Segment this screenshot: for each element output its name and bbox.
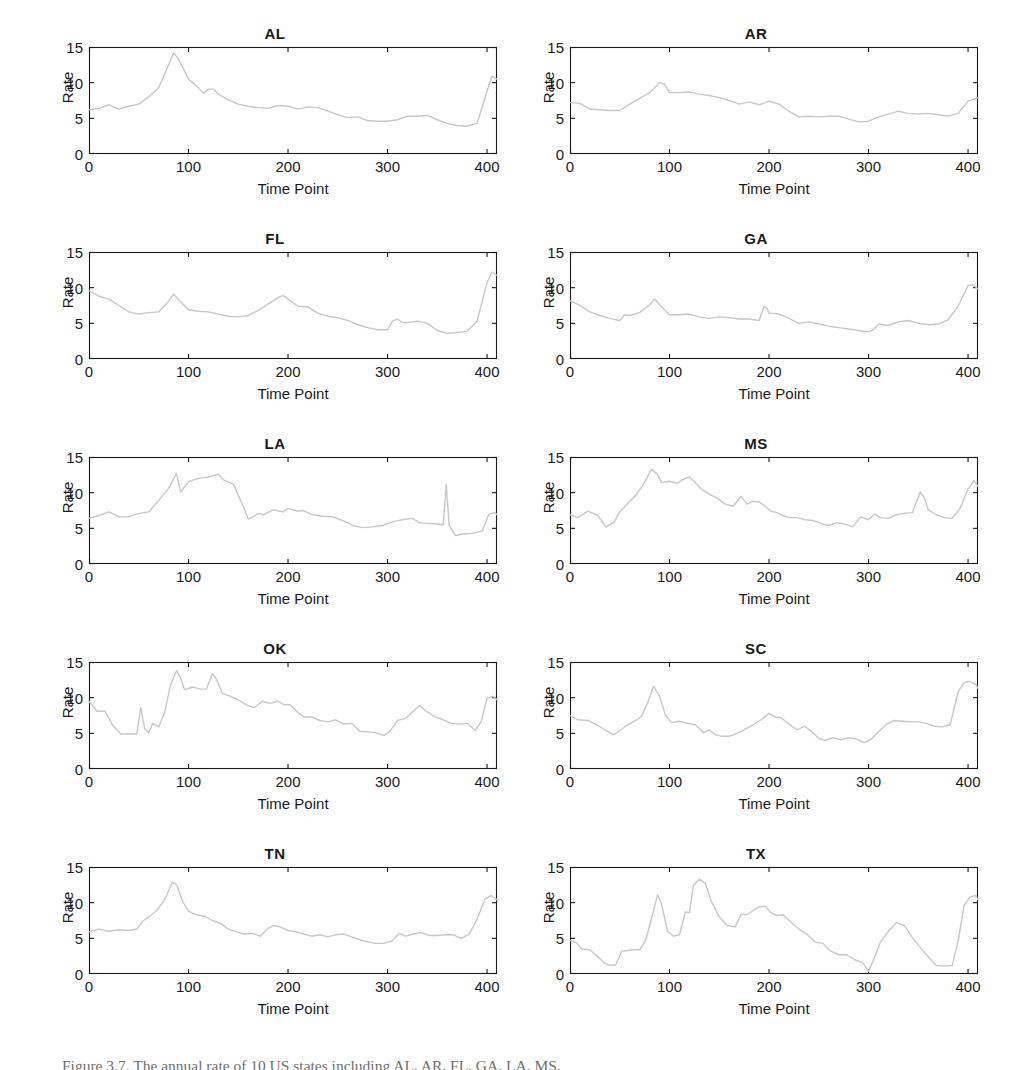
x-tick-label: 0 — [566, 159, 574, 174]
axes-ok: 0510150100200300400RateTime Point — [89, 662, 497, 769]
panel-title-fl: FL — [30, 230, 520, 247]
axes-canvas — [89, 867, 497, 974]
x-tick-label: 200 — [276, 159, 301, 174]
x-tick-label: 300 — [856, 979, 881, 994]
panel-la: LA0510150100200300400RateTime Point — [30, 435, 520, 640]
y-tick-label: 15 — [66, 655, 83, 670]
series-line-al — [89, 53, 497, 126]
axes-frame — [571, 663, 978, 769]
panel-title-ms: MS — [511, 435, 1001, 452]
x-tick-label: 300 — [856, 364, 881, 379]
x-tick-label: 400 — [475, 774, 500, 789]
figure-panel-grid: AL0510150100200300400RateTime PointAR051… — [0, 0, 1028, 1040]
x-tick-label: 0 — [566, 979, 574, 994]
x-tick-label: 300 — [375, 159, 400, 174]
x-tick-label: 0 — [85, 979, 93, 994]
y-axis-label: Rate — [540, 468, 557, 528]
x-tick-label: 400 — [956, 979, 981, 994]
y-tick-label: 0 — [556, 967, 564, 982]
x-tick-label: 200 — [276, 569, 301, 584]
y-tick-label: 0 — [75, 967, 83, 982]
y-tick-label: 5 — [556, 931, 564, 946]
axes-fl: 0510150100200300400RateTime Point — [89, 252, 497, 359]
axes-canvas — [89, 662, 497, 769]
axes-canvas — [570, 457, 978, 564]
x-axis-label: Time Point — [89, 1000, 497, 1017]
figure-caption: Figure 3.7. The annual rate of 10 US sta… — [62, 1056, 968, 1070]
x-tick-label: 0 — [85, 569, 93, 584]
x-tick-label: 200 — [276, 364, 301, 379]
x-tick-label: 400 — [956, 569, 981, 584]
axes-canvas — [570, 867, 978, 974]
x-axis-label: Time Point — [570, 180, 978, 197]
y-tick-label: 0 — [556, 352, 564, 367]
x-tick-label: 200 — [757, 364, 782, 379]
axes-frame — [571, 458, 978, 564]
x-tick-label: 100 — [657, 979, 682, 994]
x-axis-label: Time Point — [89, 385, 497, 402]
x-axis-label: Time Point — [570, 795, 978, 812]
x-axis-label: Time Point — [89, 795, 497, 812]
x-tick-label: 400 — [956, 159, 981, 174]
y-tick-label: 15 — [547, 655, 564, 670]
x-tick-label: 100 — [657, 364, 682, 379]
y-tick-label: 5 — [75, 111, 83, 126]
y-tick-label: 0 — [556, 762, 564, 777]
axes-al: 0510150100200300400RateTime Point — [89, 47, 497, 154]
axes-ar: 0510150100200300400RateTime Point — [570, 47, 978, 154]
panel-title-tx: TX — [511, 845, 1001, 862]
y-tick-label: 0 — [556, 557, 564, 572]
panel-ok: OK0510150100200300400RateTime Point — [30, 640, 520, 845]
x-tick-label: 100 — [176, 979, 201, 994]
y-axis-label: Rate — [540, 263, 557, 323]
axes-tx: 0510150100200300400RateTime Point — [570, 867, 978, 974]
y-axis-label: Rate — [540, 673, 557, 733]
panel-ar: AR0510150100200300400RateTime Point — [511, 25, 1001, 230]
x-tick-label: 100 — [657, 569, 682, 584]
x-tick-label: 200 — [276, 979, 301, 994]
x-tick-label: 100 — [176, 364, 201, 379]
series-line-ok — [89, 671, 497, 736]
x-tick-label: 100 — [657, 159, 682, 174]
axes-ms: 0510150100200300400RateTime Point — [570, 457, 978, 564]
panel-title-al: AL — [30, 25, 520, 42]
x-tick-label: 0 — [85, 159, 93, 174]
series-line-tx — [570, 879, 978, 971]
panel-ga: GA0510150100200300400RateTime Point — [511, 230, 1001, 435]
y-tick-label: 5 — [75, 316, 83, 331]
y-tick-label: 5 — [556, 111, 564, 126]
panel-title-ok: OK — [30, 640, 520, 657]
panel-title-tn: TN — [30, 845, 520, 862]
axes-frame — [571, 253, 978, 359]
x-tick-label: 300 — [856, 569, 881, 584]
y-axis-label: Rate — [59, 58, 76, 118]
x-tick-label: 400 — [475, 159, 500, 174]
x-tick-label: 200 — [757, 159, 782, 174]
x-tick-label: 400 — [475, 569, 500, 584]
panel-title-ar: AR — [511, 25, 1001, 42]
x-tick-label: 200 — [276, 774, 301, 789]
x-tick-label: 400 — [956, 774, 981, 789]
x-tick-label: 300 — [375, 364, 400, 379]
y-axis-label: Rate — [59, 468, 76, 528]
y-tick-label: 0 — [75, 352, 83, 367]
axes-canvas — [570, 47, 978, 154]
y-tick-label: 15 — [66, 245, 83, 260]
x-axis-label: Time Point — [570, 590, 978, 607]
series-line-ga — [570, 285, 978, 332]
axes-frame — [571, 48, 978, 154]
axes-canvas — [89, 252, 497, 359]
x-tick-label: 400 — [475, 364, 500, 379]
series-line-fl — [89, 272, 497, 333]
y-tick-label: 5 — [556, 521, 564, 536]
y-tick-label: 15 — [66, 40, 83, 55]
panel-sc: SC0510150100200300400RateTime Point — [511, 640, 1001, 845]
y-tick-label: 15 — [547, 450, 564, 465]
x-tick-label: 400 — [956, 364, 981, 379]
series-line-ar — [570, 83, 978, 122]
x-tick-label: 300 — [856, 159, 881, 174]
x-tick-label: 0 — [566, 364, 574, 379]
y-tick-label: 15 — [66, 450, 83, 465]
series-line-sc — [570, 681, 978, 742]
axes-ga: 0510150100200300400RateTime Point — [570, 252, 978, 359]
